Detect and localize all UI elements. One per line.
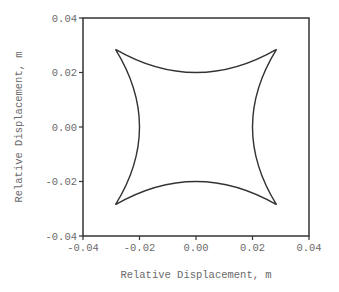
x-tick-label: -0.02: [124, 242, 156, 254]
x-tick-labels: -0.04-0.020.000.020.04: [67, 242, 321, 254]
x-tick-label: 0.04: [296, 242, 321, 254]
y-tick-label: -0.04: [45, 231, 77, 243]
x-tick-label: 0.02: [240, 242, 265, 254]
chart: -0.04-0.020.000.020.04 -0.04-0.020.000.0…: [0, 0, 339, 292]
orbit-curve: [115, 49, 276, 204]
x-tick-label: -0.04: [67, 242, 99, 254]
y-axis-label: Relative Displacement, m: [13, 51, 25, 202]
y-tick-label: 0.02: [52, 67, 77, 79]
x-axis-label: Relative Displacement, m: [120, 269, 271, 281]
y-tick-label: 0.04: [52, 13, 77, 25]
x-tick-label: 0.00: [183, 242, 208, 254]
y-tick-labels: -0.04-0.020.000.020.04: [45, 13, 77, 243]
y-tick-label: 0.00: [52, 122, 77, 134]
y-tick-label: -0.02: [45, 176, 77, 188]
